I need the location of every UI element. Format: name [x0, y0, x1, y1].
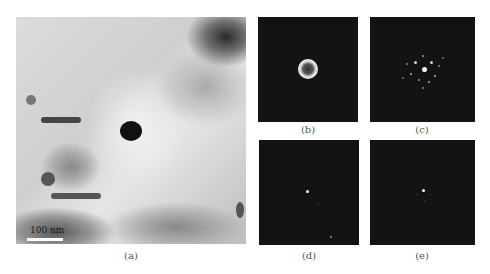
- grain-boundary: [41, 117, 81, 123]
- panel-label-a: (a): [101, 250, 161, 261]
- diffraction-panel-e: [370, 140, 475, 245]
- micrograph-panel-a: 100 nm: [16, 17, 246, 244]
- central-spot: [306, 190, 309, 193]
- panel-label-e: (e): [392, 250, 452, 261]
- grain-boundary: [51, 193, 101, 199]
- panel-label-c: (c): [392, 124, 452, 135]
- central-spot: [422, 67, 427, 72]
- defect: [236, 202, 244, 218]
- diffraction-panel-c: [370, 17, 475, 122]
- diffraction-panel-b: [258, 17, 358, 122]
- scale-bar: [27, 238, 63, 241]
- scale-bar-label: 100 nm: [30, 225, 64, 235]
- diffraction-ring: [298, 59, 318, 79]
- central-spot: [422, 189, 425, 192]
- defect: [26, 95, 36, 105]
- defect: [41, 172, 55, 186]
- panel-label-d: (d): [279, 250, 339, 261]
- diffraction-panel-d: [259, 140, 359, 245]
- panel-label-b: (b): [278, 124, 338, 135]
- particle: [120, 121, 142, 141]
